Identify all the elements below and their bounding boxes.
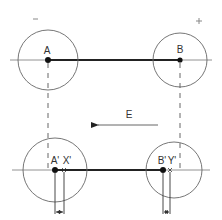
electric-field-displacement-diagram: A B E A' X' B' Y' (0, 0, 222, 220)
label-b: B (177, 44, 184, 55)
label-x-prime: X' (63, 155, 72, 166)
displacement-b-indicator (163, 172, 170, 214)
label-b-prime: B' (158, 155, 167, 166)
displacement-a-indicator (55, 172, 64, 214)
label-field-e: E (126, 109, 133, 120)
label-a: A (44, 45, 51, 56)
label-y-prime: Y' (168, 155, 177, 166)
point-a-dot (45, 57, 51, 63)
positive-sign (196, 18, 202, 24)
point-b-dot (177, 57, 182, 62)
diagram-svg: A B E A' X' B' Y' (0, 0, 222, 220)
label-a-prime: A' (51, 155, 60, 166)
